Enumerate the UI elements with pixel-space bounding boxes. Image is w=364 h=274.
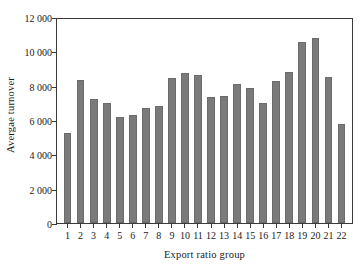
x-axis-tick-mark [106, 224, 107, 228]
bar[interactable] [233, 84, 241, 223]
bar[interactable] [116, 117, 124, 223]
x-axis-tick-label: 1 [61, 229, 74, 245]
x-axis-tick-label: 6 [126, 229, 139, 245]
bar-slot [296, 19, 309, 223]
y-axis-tick-labels: 02 0004 0006 0008 00010 00012 000 [14, 18, 56, 224]
bar-slot [205, 19, 218, 223]
x-axis-tick-mark [250, 224, 251, 228]
x-axis-tick-mark [211, 224, 212, 228]
y-axis-tick-label: 2 000 [30, 184, 53, 195]
x-axis-tick-mark [263, 224, 264, 228]
x-axis-tick-labels: 12345678910111213141516171819202122 [57, 229, 352, 245]
x-axis-tick-label: 19 [296, 229, 309, 245]
x-axis-tick-mark [184, 224, 185, 228]
x-axis-tick-label: 7 [139, 229, 152, 245]
x-axis-tick-mark [289, 224, 290, 228]
bar-slot [231, 19, 244, 223]
x-axis-tick-label: 21 [322, 229, 335, 245]
x-axis-tick-mark [328, 224, 329, 228]
bar-slot [165, 19, 178, 223]
x-axis-tick-mark [119, 224, 120, 228]
x-axis-tick-mark [67, 224, 68, 228]
bar-slot [139, 19, 152, 223]
x-axis-tick-mark [302, 224, 303, 228]
x-axis-tick-mark [237, 224, 238, 228]
y-axis-tick-label: 8 000 [30, 81, 53, 92]
x-axis-tick-label: 15 [244, 229, 257, 245]
bar[interactable] [181, 73, 189, 223]
bar-slot [257, 19, 270, 223]
x-axis-tick-label: 9 [165, 229, 178, 245]
x-axis-tick-mark [145, 224, 146, 228]
y-axis-tick-label: 10 000 [25, 47, 53, 58]
x-axis-tick-mark [93, 224, 94, 228]
bar[interactable] [90, 99, 98, 223]
x-axis-tick-mark [158, 224, 159, 228]
bar[interactable] [325, 77, 333, 223]
bar-slot [322, 19, 335, 223]
bar-slot [218, 19, 231, 223]
x-axis-tick-label: 10 [178, 229, 191, 245]
x-axis-tick-label: 13 [218, 229, 231, 245]
x-axis-tick-mark [80, 224, 81, 228]
bar[interactable] [142, 108, 150, 223]
bar-slot [87, 19, 100, 223]
bar-slot [309, 19, 322, 223]
bar[interactable] [155, 106, 163, 223]
bar[interactable] [259, 103, 267, 223]
bar[interactable] [129, 115, 137, 223]
y-axis-tick-label: 12 000 [25, 13, 53, 24]
bar-slot [113, 19, 126, 223]
x-axis-tick-mark [341, 224, 342, 228]
bar[interactable] [312, 38, 320, 223]
x-axis-tick-mark [276, 224, 277, 228]
bar-chart-figure: Avergae turnover 02 0004 0006 0008 00010… [0, 0, 364, 274]
bar-slot [178, 19, 191, 223]
x-axis-tick-mark [171, 224, 172, 228]
bar[interactable] [103, 103, 111, 223]
x-axis-tick-label: 16 [257, 229, 270, 245]
bar-slot [191, 19, 204, 223]
x-axis-tick-mark [132, 224, 133, 228]
bar-slot [270, 19, 283, 223]
x-axis-tick-mark [224, 224, 225, 228]
x-axis-tick-label: 11 [191, 229, 204, 245]
x-axis-tick-label: 20 [309, 229, 322, 245]
bar[interactable] [285, 72, 293, 223]
bar[interactable] [194, 75, 202, 223]
bar[interactable] [298, 42, 306, 223]
y-axis-tick-label: 6 000 [30, 116, 53, 127]
x-axis-tick-label: 18 [283, 229, 296, 245]
x-axis-tick-label: 3 [87, 229, 100, 245]
bar-series [57, 19, 352, 223]
x-axis-tick-label: 22 [335, 229, 348, 245]
x-axis-tick-mark [197, 224, 198, 228]
bar[interactable] [64, 133, 72, 223]
bar-slot [335, 19, 348, 223]
bar-slot [61, 19, 74, 223]
bar-slot [100, 19, 113, 223]
x-axis-tick-label: 17 [270, 229, 283, 245]
x-axis-tick-label: 2 [74, 229, 87, 245]
bar[interactable] [220, 96, 228, 224]
bar[interactable] [207, 97, 215, 223]
bar-slot [283, 19, 296, 223]
bar[interactable] [246, 88, 254, 223]
bar[interactable] [168, 78, 176, 223]
bar[interactable] [272, 81, 280, 223]
x-axis-tick-label: 12 [205, 229, 218, 245]
x-axis-tick-label: 8 [152, 229, 165, 245]
x-axis-tick-label: 5 [113, 229, 126, 245]
x-axis-tick-label: 14 [231, 229, 244, 245]
x-axis-title: Export ratio group [56, 249, 353, 260]
bar-slot [244, 19, 257, 223]
x-axis-tick-label: 4 [100, 229, 113, 245]
x-axis-tick-mark [315, 224, 316, 228]
bar-slot [74, 19, 87, 223]
bar-slot [152, 19, 165, 223]
bar[interactable] [77, 80, 85, 223]
bar-slot [126, 19, 139, 223]
y-axis-tick-label: 4 000 [30, 150, 53, 161]
bar[interactable] [338, 124, 346, 223]
